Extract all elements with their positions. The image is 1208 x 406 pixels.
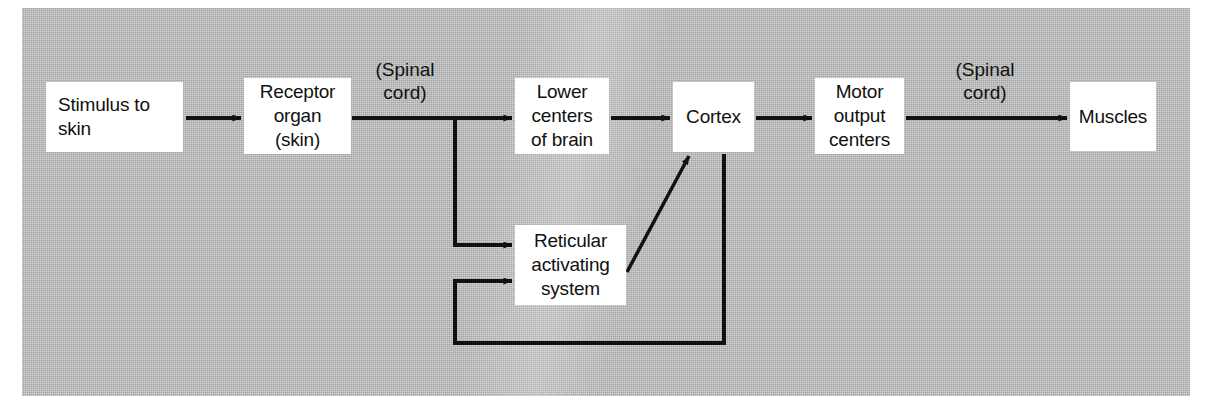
node-stimulus-to-skin: Stimulus to skin (46, 82, 183, 152)
edge-label-spinal-cord-afferent: (Spinal cord) (355, 58, 455, 104)
flow-diagram: Stimulus to skin Receptor organ (skin) L… (0, 0, 1208, 406)
edge-reticular-to-cortex (627, 156, 689, 272)
node-label: Reticular activating system (531, 229, 609, 301)
node-label: Stimulus to skin (58, 93, 150, 141)
node-receptor-organ: Receptor organ (skin) (244, 78, 351, 154)
node-cortex: Cortex (673, 82, 754, 152)
node-label: Cortex (686, 105, 741, 129)
node-label: Motor output centers (829, 80, 890, 152)
node-label: Muscles (1079, 105, 1147, 129)
node-lower-centers-of-brain: Lower centers of brain (515, 78, 609, 154)
node-label: Lower centers of brain (531, 80, 593, 152)
node-muscles: Muscles (1070, 82, 1156, 151)
edge-label-spinal-cord-efferent: (Spinal cord) (925, 58, 1045, 104)
node-motor-output-centers: Motor output centers (815, 78, 904, 154)
node-label: Receptor organ (skin) (260, 80, 336, 152)
node-reticular-activating-system: Reticular activating system (515, 225, 626, 305)
